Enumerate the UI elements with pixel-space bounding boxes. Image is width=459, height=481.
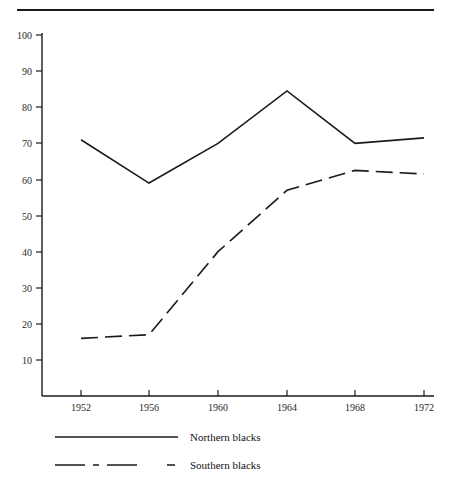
series-line-northern-blacks (81, 91, 424, 183)
x-tick-label-1952: 1952 (71, 402, 91, 413)
y-tick-label-80: 80 (22, 102, 32, 113)
legend: Northern blacks Southern blacks (55, 431, 261, 471)
x-tick-label-1972: 1972 (414, 402, 434, 413)
x-tick-label-1960: 1960 (208, 402, 228, 413)
y-tick-label-60: 60 (22, 175, 32, 186)
y-tick-label-10: 10 (22, 355, 32, 366)
y-tick-label-40: 40 (22, 247, 32, 258)
y-tick-label-20: 20 (22, 319, 32, 330)
chart-figure: 100 90 80 70 60 50 40 30 20 10 1952 1956… (0, 0, 459, 481)
y-tick-label-90: 90 (22, 66, 32, 77)
x-tick-label-1968: 1968 (345, 402, 365, 413)
x-tick-label-1956: 1956 (139, 402, 159, 413)
x-tick-label-1964: 1964 (277, 402, 297, 413)
line-chart-canvas: 100 90 80 70 60 50 40 30 20 10 1952 1956… (0, 0, 459, 481)
legend-label-northern-blacks: Northern blacks (190, 431, 261, 443)
legend-label-southern-blacks: Southern blacks (190, 459, 261, 471)
y-tick-label-50: 50 (22, 211, 32, 222)
series-group (81, 91, 424, 338)
x-axis: 1952 1956 1960 1964 1968 1972 (42, 390, 434, 413)
series-line-southern-blacks (81, 170, 424, 338)
y-tick-label-70: 70 (22, 138, 32, 149)
y-tick-label-100: 100 (17, 30, 32, 41)
y-tick-label-30: 30 (22, 283, 32, 294)
y-axis: 100 90 80 70 60 50 40 30 20 10 (17, 30, 42, 396)
